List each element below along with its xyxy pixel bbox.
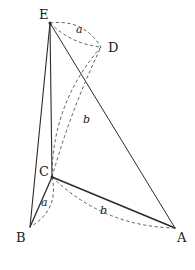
geometry-canvas [0,0,195,270]
length-label-a-top: a [76,24,83,35]
length-label-b-bottom: b [100,205,107,216]
vertex-label-d: D [108,41,118,54]
vertex-label-a: A [177,231,186,244]
vertex-label-c: C [39,165,49,178]
length-label-b-middle: b [83,114,90,125]
vertex-dot-e [49,22,52,25]
vertex-dot-c [51,176,54,179]
solid-edges-group [30,23,175,228]
vertex-label-b: B [16,231,26,244]
vertex-label-e: E [39,8,49,21]
edge-E-C [50,23,52,177]
length-label-a-bottom: a [41,197,48,208]
edge-C-A [52,177,175,228]
geometry-figure: EDCBA abab [0,0,195,270]
